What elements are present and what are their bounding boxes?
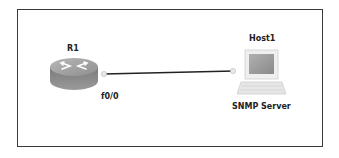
host-label: Host1 [249,35,275,43]
router-label: R1 [67,45,79,53]
link-endpoint-host1 [230,68,235,73]
network-diagram [0,0,339,158]
host-role-label: SNMP Server [232,103,291,111]
interface-label: f0/0 [101,93,119,101]
link-r1-host1[interactable] [101,68,235,76]
link-endpoint-r1 [101,71,106,76]
computer-icon[interactable] [237,50,286,94]
router-icon[interactable] [50,58,98,90]
